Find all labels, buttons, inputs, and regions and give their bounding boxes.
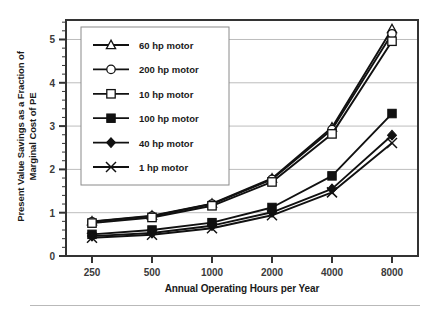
y-tick-label: 0 (49, 251, 55, 262)
legend-item-label: 40 hp motor (139, 138, 194, 149)
data-point-marker (88, 219, 96, 227)
x-axis-tick-labels: 2505001000200040008000 (84, 267, 404, 278)
legend-item-label: 1 hp motor (139, 162, 188, 173)
data-point-marker (328, 130, 336, 138)
legend-item[interactable]: 1 hp motor (93, 162, 188, 173)
y-tick-label: 3 (49, 121, 55, 132)
chart-figure: Present Value Savings as a Fraction of M… (0, 0, 437, 313)
data-point-marker (107, 90, 115, 98)
legend-item[interactable]: 10 hp motor (93, 89, 194, 100)
x-tick-label: 1000 (201, 267, 224, 278)
y-axis-major-ticks (59, 39, 66, 256)
data-point-marker (208, 202, 216, 210)
line-chart-plot: 012345 2505001000200040008000 60 hp moto… (0, 0, 437, 313)
x-tick-label: 8000 (381, 267, 404, 278)
data-point-marker (328, 172, 336, 180)
y-tick-label: 2 (49, 164, 55, 175)
y-tick-label: 4 (49, 78, 55, 89)
x-tick-label: 250 (84, 267, 101, 278)
legend-item[interactable]: 200 hp motor (93, 64, 199, 75)
y-tick-label: 5 (49, 34, 55, 45)
x-axis-ticks (92, 256, 392, 263)
data-point-marker (388, 37, 396, 45)
y-axis-tick-labels: 012345 (49, 34, 55, 262)
data-point-marker (107, 65, 115, 73)
y-tick-label: 1 (49, 208, 55, 219)
x-tick-label: 500 (144, 267, 161, 278)
chart-legend: 60 hp motor200 hp motor10 hp motor100 hp… (81, 27, 229, 185)
legend-item-label: 200 hp motor (139, 64, 199, 75)
legend-item-label: 60 hp motor (139, 40, 194, 51)
legend-item-label: 10 hp motor (139, 89, 194, 100)
x-tick-label: 4000 (321, 267, 344, 278)
legend-item-label: 100 hp motor (139, 113, 199, 124)
data-point-marker (107, 114, 115, 122)
x-axis-title: Annual Operating Hours per Year (66, 283, 418, 294)
data-point-marker (148, 213, 156, 221)
legend-item[interactable]: 100 hp motor (93, 113, 199, 124)
x-tick-label: 2000 (261, 267, 284, 278)
data-point-marker (388, 109, 396, 117)
footer-divider (30, 305, 420, 306)
data-point-marker (268, 178, 276, 186)
